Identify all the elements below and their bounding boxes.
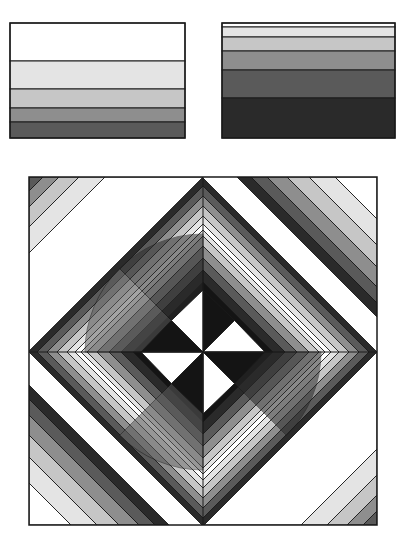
swatch-right xyxy=(222,23,395,138)
swatch-band xyxy=(10,89,185,108)
swatch-band xyxy=(222,98,395,138)
swatch-band xyxy=(10,108,185,122)
swatch-band xyxy=(222,70,395,98)
swatch-band xyxy=(222,51,395,70)
swatch-group xyxy=(10,23,395,138)
swatch-band xyxy=(222,27,395,37)
illustration-canvas xyxy=(0,0,407,539)
swatch-band xyxy=(10,23,185,61)
diagonal-pattern-square xyxy=(29,177,377,526)
swatch-band xyxy=(10,61,185,89)
swatch-band xyxy=(10,122,185,138)
swatch-band xyxy=(222,37,395,51)
swatch-left xyxy=(10,23,185,138)
